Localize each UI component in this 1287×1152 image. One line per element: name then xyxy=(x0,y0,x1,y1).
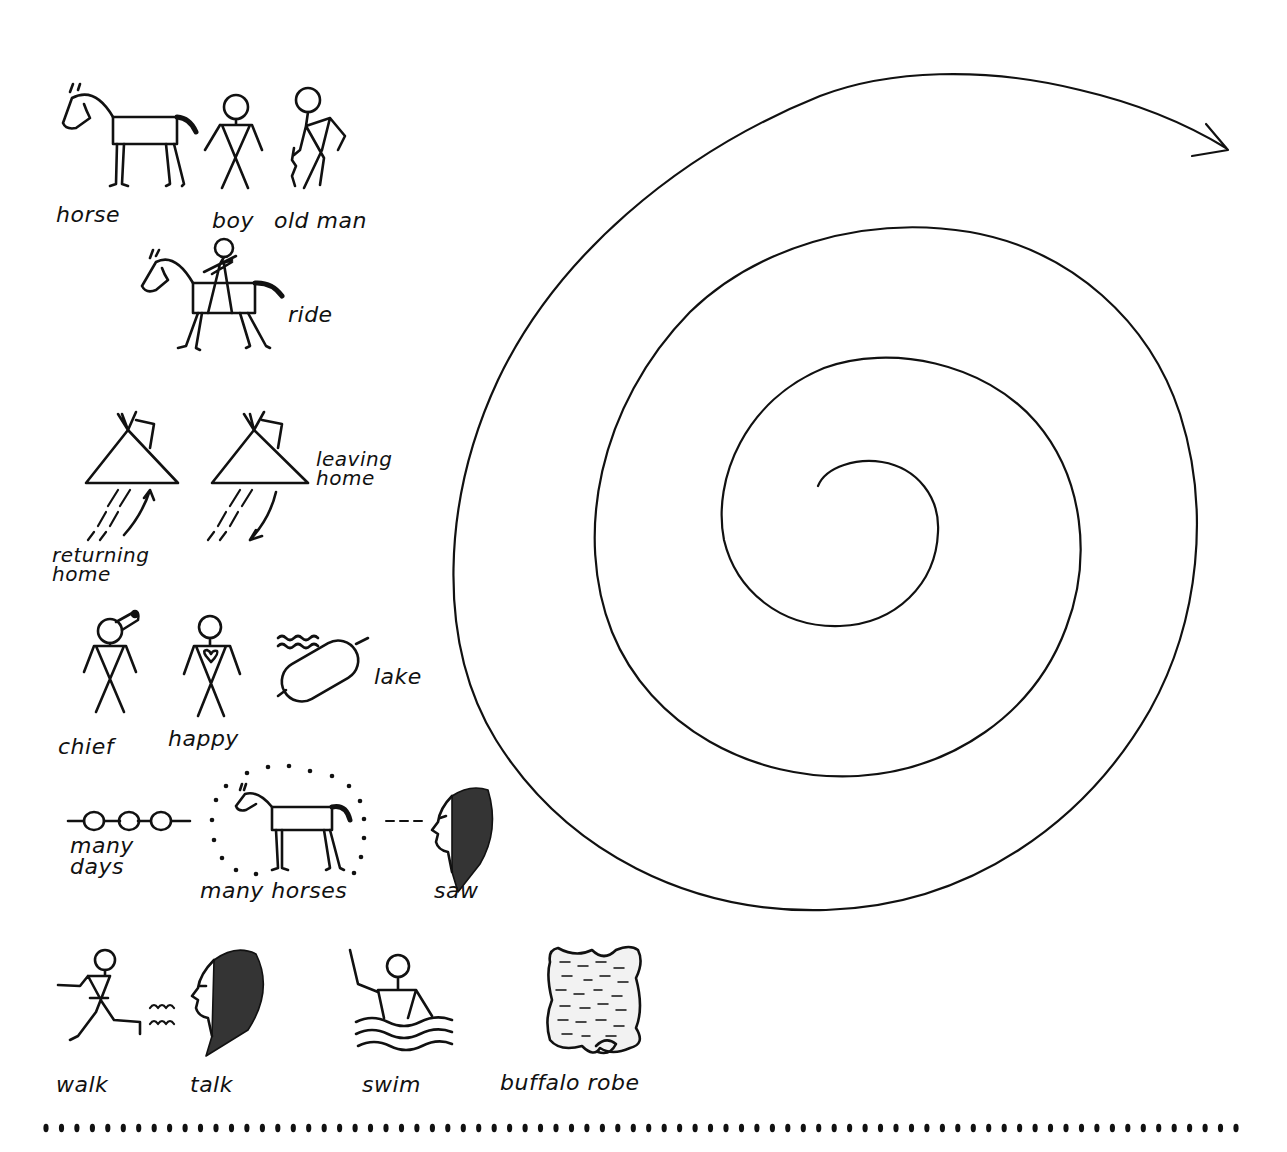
walk-icon xyxy=(58,950,140,1040)
label-walk: walk xyxy=(56,1074,108,1096)
label-returning-home: returning home xyxy=(52,546,149,584)
label-saw: saw xyxy=(434,880,478,902)
label-leaving-home: leaving home xyxy=(316,450,392,488)
label-boy: boy xyxy=(212,210,254,232)
boy-icon xyxy=(205,95,262,188)
label-many-horses: many horses xyxy=(200,880,347,902)
label-swim: swim xyxy=(362,1074,421,1096)
label-buffalo-robe: buffalo robe xyxy=(500,1072,639,1094)
label-happy: happy xyxy=(168,728,239,750)
leaving-home-icon xyxy=(208,412,308,540)
talk-icon xyxy=(150,950,263,1056)
many-horses-icon xyxy=(210,764,367,877)
swim-icon xyxy=(350,950,452,1050)
label-talk: talk xyxy=(190,1074,233,1096)
horse-icon xyxy=(63,84,196,186)
label-lake: lake xyxy=(374,666,422,688)
buffalo-robe-icon xyxy=(547,947,640,1053)
dotted-divider xyxy=(43,1124,1238,1132)
pictograph-artwork xyxy=(0,0,1287,1152)
spiral-icon xyxy=(453,74,1228,910)
label-ride: ride xyxy=(288,304,333,326)
happy-icon xyxy=(184,616,240,716)
saw-icon xyxy=(386,788,493,892)
label-horse: horse xyxy=(56,204,120,226)
lake-icon xyxy=(274,633,368,709)
many-days-icon xyxy=(68,812,190,830)
old-man-icon xyxy=(292,88,345,188)
chief-icon xyxy=(84,611,139,712)
label-chief: chief xyxy=(58,736,114,758)
label-old-man: old man xyxy=(274,210,367,232)
returning-home-icon xyxy=(86,412,178,540)
label-many-days: many days xyxy=(70,836,134,878)
ride-icon xyxy=(142,239,282,350)
pictograph-sheet: horse boy old man ride returning home le… xyxy=(0,0,1287,1152)
